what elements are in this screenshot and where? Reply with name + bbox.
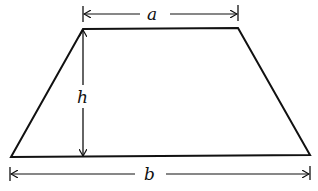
label-h: h [73,88,92,106]
diagram-canvas [0,0,318,191]
label-a: a [143,5,161,23]
trapezoid-shape [11,28,310,157]
trapezoid-diagram: a h b [0,0,318,191]
dimension-b [10,166,310,181]
label-b: b [140,165,159,183]
